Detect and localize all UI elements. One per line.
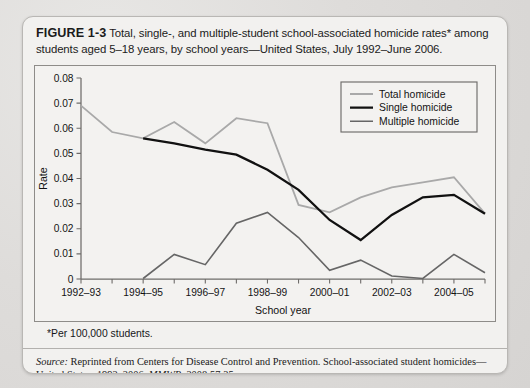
y-axis-tick-label: 0.04 bbox=[54, 173, 74, 184]
figure-number: FIGURE 1-3 bbox=[36, 26, 106, 40]
source-text-2: 2008;57:35. bbox=[184, 369, 237, 374]
figure-footnote: *Per 100,000 students. bbox=[47, 328, 153, 339]
homicide-rate-line-chart: 00.010.020.030.040.050.060.070.081992–93… bbox=[35, 66, 495, 321]
legend-label-single-homicide: Single homicide bbox=[379, 102, 453, 113]
series-line-multiple-homicide bbox=[143, 212, 485, 278]
x-axis-tick-label: 2002–03 bbox=[372, 287, 412, 298]
figure-container: FIGURE 1-3 Total, single-, and multiple-… bbox=[22, 16, 508, 374]
x-axis-title: School year bbox=[255, 304, 311, 316]
y-axis-title: Rate bbox=[37, 167, 49, 189]
y-axis-tick-label: 0.07 bbox=[54, 98, 74, 109]
x-axis-tick-label: 1996–97 bbox=[185, 287, 225, 298]
series-line-single-homicide bbox=[143, 138, 485, 240]
y-axis-tick-label: 0.06 bbox=[54, 123, 74, 134]
source-divider bbox=[23, 348, 508, 349]
y-axis-tick-label: 0.03 bbox=[54, 198, 74, 209]
x-axis-tick-label: 1992–93 bbox=[61, 287, 101, 298]
x-axis-tick-label: 2004–05 bbox=[434, 287, 474, 298]
y-axis-tick-label: 0.02 bbox=[54, 223, 74, 234]
y-axis-tick-label: 0.05 bbox=[54, 148, 74, 159]
source-text-1: Reprinted from Centers for Disease Contr… bbox=[36, 356, 486, 374]
x-axis-tick-label: 2000–01 bbox=[310, 287, 350, 298]
figure-caption: FIGURE 1-3 Total, single-, and multiple-… bbox=[36, 26, 492, 57]
source-label: Source: bbox=[36, 356, 68, 367]
x-axis-tick-label: 1994–95 bbox=[123, 287, 163, 298]
source-note: Source: Reprinted from Centers for Disea… bbox=[36, 355, 498, 374]
legend-label-multiple-homicide: Multiple homicide bbox=[379, 116, 459, 127]
y-axis-tick-label: 0 bbox=[68, 274, 74, 285]
y-axis-tick-label: 0.08 bbox=[54, 73, 74, 84]
y-axis-tick-label: 0.01 bbox=[54, 248, 74, 259]
x-axis-tick-label: 1998–99 bbox=[248, 287, 288, 298]
chart-plot-panel: 00.010.020.030.040.050.060.070.081992–93… bbox=[34, 65, 496, 322]
legend-label-total-homicide: Total homicide bbox=[379, 89, 446, 100]
source-journal: MMWR. bbox=[149, 369, 184, 374]
